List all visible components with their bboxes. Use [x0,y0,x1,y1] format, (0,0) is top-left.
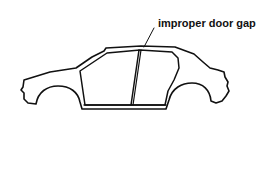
door-frame-inner [80,50,179,105]
annotation-label: improper door gap [158,17,256,29]
door-gap-line-front [131,50,139,105]
diagram-canvas: improper door gap [0,0,269,171]
car-outer-outline [21,46,229,109]
annotation-leader-line [144,28,154,47]
door-gap-line-rear [133,50,141,105]
